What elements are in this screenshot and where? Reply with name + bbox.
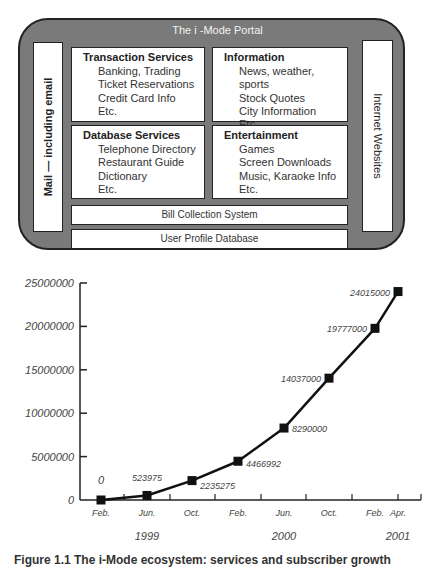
x-tick-label: Oct.	[321, 508, 338, 518]
information-box: Information News, weather, sports Stock …	[212, 47, 348, 122]
line-chart: 0500000010000000150000002000000025000000…	[0, 270, 435, 565]
bill-collection-bar: Bill Collection System	[71, 205, 348, 225]
service-item: Stock Quotes	[239, 92, 347, 105]
x-tick-label: Feb.	[366, 508, 384, 518]
websites-label: Internet Websites	[372, 93, 384, 178]
x-tick-label: Jun.	[274, 508, 292, 518]
data-label: 523975	[132, 473, 163, 483]
x-tick-label: Jun.	[137, 508, 155, 518]
data-label: 8290000	[292, 424, 327, 434]
year-label: 2001	[385, 530, 410, 542]
data-point-marker	[371, 324, 380, 333]
transaction-services-box: Transaction Services Banking, Trading Ti…	[71, 47, 205, 122]
portal-title: The i -Mode Portal	[0, 24, 435, 36]
service-item: Etc.	[239, 183, 336, 196]
data-label: 19777000	[327, 324, 367, 334]
y-tick-label: 15000000	[25, 364, 75, 376]
data-point-marker	[234, 457, 243, 466]
service-title: Database Services	[83, 129, 180, 141]
figure-caption: Figure 1.1 The i-Mode ecosystem: service…	[14, 553, 391, 567]
service-title: Entertainment	[224, 129, 298, 141]
service-item: Telephone Directory	[98, 143, 196, 156]
data-point-marker	[188, 476, 197, 485]
service-item: Banking, Trading	[98, 65, 194, 78]
data-label: 0	[98, 474, 105, 486]
y-tick-label: 10000000	[25, 407, 75, 419]
service-item: Ticket Reservations	[98, 78, 194, 91]
service-title: Transaction Services	[83, 51, 193, 63]
service-item: Restaurant Guide	[98, 156, 196, 169]
y-tick-label: 5000000	[31, 451, 75, 463]
x-tick-label: Feb.	[229, 508, 247, 518]
data-point-marker	[97, 496, 106, 505]
year-label: 2000	[271, 530, 297, 542]
mail-label: Mail — including email	[42, 78, 54, 197]
service-item: Games	[239, 143, 336, 156]
data-label: 24015000	[349, 288, 390, 298]
x-tick-label: Feb.	[92, 508, 110, 518]
service-item: Etc.	[98, 183, 196, 196]
data-point-marker	[143, 491, 152, 500]
service-item: News, weather, sports	[239, 65, 347, 92]
entertainment-box: Entertainment Games Screen Downloads Mus…	[212, 125, 348, 199]
x-tick-label: Apr.	[389, 508, 406, 518]
data-label: 4466992	[246, 459, 281, 469]
y-tick-label: 0	[68, 494, 75, 506]
data-point-marker	[394, 287, 403, 296]
subscriber-growth-chart: 0500000010000000150000002000000025000000…	[0, 270, 435, 565]
service-item: Music, Karaoke Info	[239, 170, 336, 183]
service-title: Information	[224, 51, 285, 63]
data-label: 14037000	[281, 374, 321, 384]
user-profile-bar: User Profile Database	[71, 229, 348, 249]
year-label: 1999	[135, 530, 159, 542]
data-point-marker	[280, 424, 289, 433]
database-services-box: Database Services Telephone Directory Re…	[71, 125, 205, 199]
internet-websites-box: Internet Websites	[362, 40, 393, 232]
service-item: City Information	[239, 105, 347, 118]
y-tick-label: 20000000	[24, 320, 75, 332]
y-tick-label: 25000000	[24, 277, 75, 289]
service-item: Credit Card Info	[98, 92, 194, 105]
mail-box: Mail — including email	[33, 42, 63, 232]
service-item: Dictionary	[98, 170, 196, 183]
service-item: Screen Downloads	[239, 156, 336, 169]
x-tick-label: Oct.	[184, 508, 201, 518]
data-point-marker	[325, 374, 334, 383]
service-item: Etc.	[98, 105, 194, 118]
data-label: 2235275	[199, 481, 236, 491]
